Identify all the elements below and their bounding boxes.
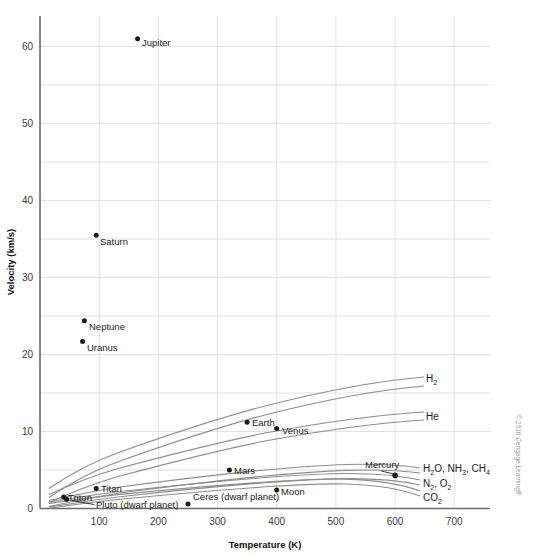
x-tick-600: 600	[387, 516, 404, 527]
x-tick-400: 400	[268, 516, 285, 527]
point-mars[interactable]	[227, 468, 232, 473]
point-saturn[interactable]	[94, 233, 99, 238]
y-axis-title: Velocity (km/s)	[5, 229, 16, 296]
point-titan[interactable]	[94, 486, 99, 491]
x-axis-title: Temperature (K)	[229, 539, 302, 550]
copyright-notice: © 2016 Cengage Learning®	[514, 414, 522, 495]
x-tick-100: 100	[91, 516, 108, 527]
label-moon: Moon	[281, 486, 305, 497]
y-tick-60: 60	[22, 41, 34, 52]
label-pluto: Pluto (dwarf planet)	[96, 499, 178, 510]
label-triton: Triton	[68, 492, 92, 503]
label-jupiter: Jupiter	[142, 37, 171, 48]
label-mercury: Mercury	[365, 459, 400, 470]
y-tick-10: 10	[22, 426, 34, 437]
x-tick-300: 300	[209, 516, 226, 527]
escape-velocity-chart: 0 10 20 30 40 50 60 100 200 300 400 500 …	[0, 0, 534, 557]
y-tick-20: 20	[22, 349, 34, 360]
point-jupiter[interactable]	[135, 36, 140, 41]
label-ceres: Ceres (dwarf planet)	[193, 491, 279, 502]
point-venus[interactable]	[274, 426, 279, 431]
gas-label-he: He	[426, 411, 439, 422]
y-tick-30: 30	[22, 272, 34, 283]
point-earth[interactable]	[245, 420, 250, 425]
label-venus: Venus	[282, 425, 309, 436]
point-neptune[interactable]	[82, 318, 87, 323]
label-neptune: Neptune	[89, 321, 125, 332]
x-tick-200: 200	[150, 516, 167, 527]
point-ceres[interactable]	[186, 501, 191, 506]
label-uranus: Uranus	[87, 342, 118, 353]
label-mars: Mars	[234, 465, 255, 476]
y-tick-50: 50	[22, 118, 34, 129]
point-uranus[interactable]	[80, 339, 85, 344]
label-earth: Earth	[252, 417, 275, 428]
label-titan: Titan	[101, 483, 122, 494]
x-tick-500: 500	[328, 516, 345, 527]
y-tick-40: 40	[22, 195, 34, 206]
x-tick-700: 700	[446, 516, 463, 527]
label-saturn: Saturn	[100, 236, 128, 247]
y-tick-0: 0	[27, 503, 33, 514]
